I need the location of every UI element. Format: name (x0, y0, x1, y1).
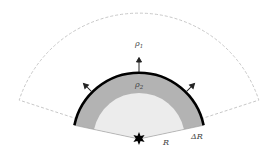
rho1-label: ρ1 (134, 39, 143, 49)
shell-diagram: ρ1 ρ2 R ΔR (0, 0, 278, 153)
arrow-up-icon (137, 58, 142, 73)
radius-label: R (162, 138, 169, 147)
shell-thickness-label: ΔR (190, 132, 203, 141)
